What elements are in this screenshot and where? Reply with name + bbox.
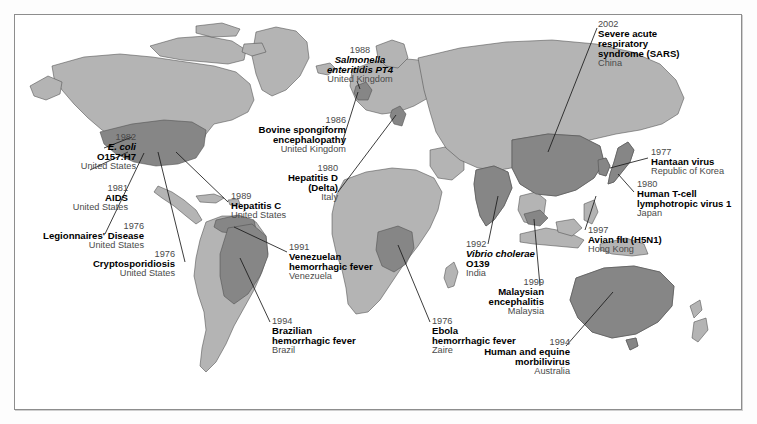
label-morbilli-country: Australia — [452, 367, 570, 376]
label-hantaan-virus: 1977 Hantaan virus Republic of Korea — [651, 148, 724, 177]
figure-root: 1982 E. coli O157:H7 United States 1981 … — [0, 0, 757, 424]
label-htlv1: 1980 Human T-cell lymphotropic virus 1 J… — [637, 180, 731, 218]
label-vibrio-cholerae: 1992 Vibrio cholerae O139 India — [466, 240, 535, 278]
label-salmonella: 1988 Salmonella enteritidis PT4 United K… — [316, 46, 404, 84]
land-central-america — [154, 186, 202, 224]
label-hepd-country: Italy — [240, 193, 338, 202]
highlight-brazil — [220, 224, 268, 304]
label-avianflu-country: Hong Kong — [588, 245, 662, 254]
label-cryptosporidiosis: 1976 Cryptosporidiosis United States — [0, 250, 175, 279]
leader-hepc — [176, 152, 228, 202]
label-hepatitis-d: 1980 Hepatitis D (Delta) Italy — [240, 164, 338, 202]
land-nz2 — [692, 318, 708, 342]
label-hantaan-country: Republic of Korea — [651, 167, 724, 176]
highlight-zaire — [376, 226, 414, 272]
label-sars: 2002 Severe acute respiratory syndrome (… — [598, 20, 680, 68]
highlight-australia — [570, 266, 674, 338]
label-avian-flu: 1997 Avian flu (H5N1) Hong Kong — [588, 226, 662, 255]
label-ecoli-country: United States — [0, 162, 136, 171]
label-htlv-country: Japan — [637, 209, 731, 218]
label-hepc-country: United States — [231, 211, 286, 220]
label-ecoli: 1982 E. coli O157:H7 United States — [0, 133, 136, 171]
label-aids-country: United States — [0, 203, 128, 212]
land-caribbean — [196, 194, 224, 203]
label-bse-country: United Kingdom — [228, 145, 346, 154]
label-salmonella-country: United Kingdom — [316, 75, 404, 84]
label-sars-country: China — [598, 59, 680, 68]
leader-htlv — [618, 174, 634, 192]
highlight-china — [512, 134, 604, 196]
label-legionnaires: 1976 Legionnaires' Disease United States — [0, 222, 144, 251]
land-greenland — [252, 27, 309, 96]
land-canada-arctic2 — [196, 23, 240, 37]
highlight-india — [474, 166, 512, 226]
highlight-tasmania — [626, 338, 638, 350]
label-malaysian-encephalitis: 1999 Malaysian encephalitis Malaysia — [452, 278, 544, 316]
highlight-korea — [598, 158, 610, 176]
label-aids: 1981 AIDS United States — [0, 184, 128, 213]
label-brazilian-hf: 1994 Brazilian hemorrhagic fever Brazil — [272, 317, 356, 355]
label-bse: 1986 Bovine spongiform encephalopathy Un… — [228, 116, 346, 154]
label-crypto-country: United States — [0, 269, 175, 278]
leader-ebola — [398, 245, 430, 322]
land-nz — [690, 300, 702, 318]
label-brazilian-country: Brazil — [272, 346, 356, 355]
label-malaysian-country: Malaysia — [452, 307, 544, 316]
label-morbilivirus: 1994 Human and equine morbilivirus Austr… — [452, 338, 570, 376]
label-venezuelan-hf: 1991 Venezuelan hemorrhagic fever Venezu… — [289, 243, 373, 281]
label-venezuelan-country: Venezuela — [289, 272, 373, 281]
